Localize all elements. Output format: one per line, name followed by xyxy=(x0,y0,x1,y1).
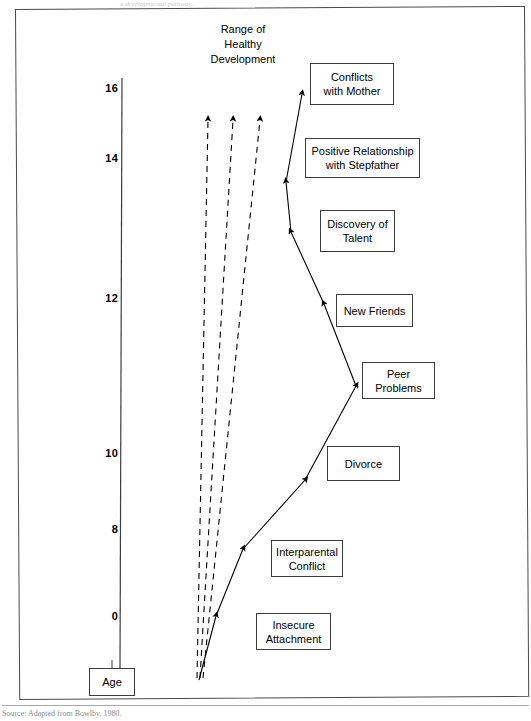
axis-tick-14: 14 xyxy=(92,152,118,164)
event-line-1: Discovery of xyxy=(327,217,388,231)
event-box-interparental-conflict: Interparental Conflict xyxy=(271,540,343,577)
source-divider xyxy=(2,705,529,706)
axis-tick-12: 12 xyxy=(92,292,118,304)
range-title-line-3: Development xyxy=(183,52,303,67)
event-line-1: Peer xyxy=(375,367,421,381)
event-box-new-friends: New Friends xyxy=(336,294,413,327)
event-box-positive-relationship: Positive Relationship with Stepfather xyxy=(305,138,420,178)
event-box-discovery-of-talent: Discovery of Talent xyxy=(320,210,395,252)
event-line-1: Insecure xyxy=(266,618,322,632)
event-line-2: Talent xyxy=(327,231,388,245)
event-line-2: Conflict xyxy=(276,559,338,573)
event-line-1: Conflicts xyxy=(324,70,381,84)
event-line-1: Positive Relationship xyxy=(311,144,413,158)
event-box-peer-problems: Peer Problems xyxy=(362,362,435,399)
event-line-1: New Friends xyxy=(344,304,406,318)
figure-frame xyxy=(15,6,529,700)
range-title-line-2: Healthy xyxy=(183,37,303,52)
axis-tick-10: 10 xyxy=(92,447,118,459)
event-box-insecure-attachment: Insecure Attachment xyxy=(256,613,331,650)
axis-tick-0: 0 xyxy=(92,610,118,622)
event-box-divorce: Divorce xyxy=(327,446,400,481)
age-axis-label-box: Age xyxy=(89,668,135,696)
range-of-healthy-development-title: Range of Healthy Development xyxy=(183,22,303,67)
axis-tick-8: 8 xyxy=(92,523,118,535)
event-line-1: Interparental xyxy=(276,545,338,559)
event-line-2: Problems xyxy=(375,381,421,395)
axis-tick-16: 16 xyxy=(92,82,118,94)
range-title-line-1: Range of xyxy=(183,22,303,37)
event-line-1: Divorce xyxy=(345,457,382,471)
event-line-2: with Stepfather xyxy=(311,158,413,172)
event-line-2: Attachment xyxy=(266,632,322,646)
source-note: Source: Adapted from Bowlby, 1980. xyxy=(2,709,121,718)
event-line-2: with Mother xyxy=(324,84,381,98)
event-box-conflicts-with-mother: Conflicts with Mother xyxy=(310,63,394,105)
